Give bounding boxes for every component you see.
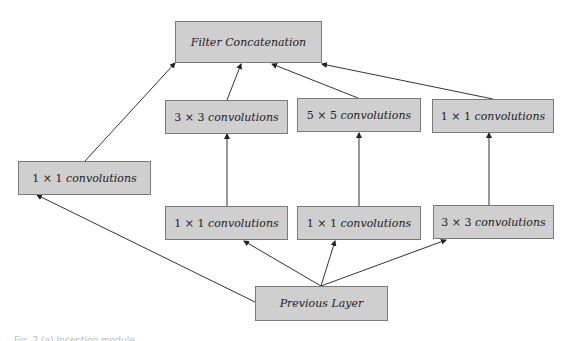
edge-previous-to-conv3x3-bottom-right [321, 240, 446, 286]
node-label: convolutions [341, 109, 412, 122]
node-label: convolutions [341, 217, 412, 230]
kernel-size: 1 × 1 [307, 217, 337, 230]
conv1x1-top-right-node: 1 × 1 convolutions [432, 99, 554, 133]
kernel-size: 1 × 1 [32, 172, 62, 185]
node-label: convolutions [208, 217, 279, 230]
conv3x3-bottom-right-node: 3 × 3 convolutions [433, 205, 554, 239]
edge-conv1x1-left-to-concat [85, 63, 175, 161]
edge-previous-to-conv1x1-bottom-a [244, 241, 321, 286]
figure-caption: Fig. 2 (a) Inception module [14, 333, 135, 341]
kernel-size: 3 × 3 [441, 216, 471, 229]
node-label: convolutions [66, 172, 137, 185]
previous-layer-node: Previous Layer [255, 286, 388, 321]
conv1x1-left-node: 1 × 1 convolutions [18, 161, 151, 195]
kernel-size: 3 × 3 [174, 111, 204, 124]
conv1x1-bottom-a-node: 1 × 1 convolutions [165, 206, 288, 240]
kernel-size: 5 × 5 [307, 109, 337, 122]
conv5x5-top-node: 5 × 5 convolutions [297, 98, 421, 132]
conv1x1-bottom-b-node: 1 × 1 convolutions [297, 206, 421, 240]
node-label: Filter Concatenation [191, 36, 306, 49]
node-label: convolutions [208, 111, 279, 124]
edge-conv3x3-top-to-concat [227, 64, 241, 100]
node-label: Previous Layer [280, 297, 364, 310]
kernel-size: 1 × 1 [174, 217, 204, 230]
edge-previous-to-conv1x1-bottom-b [321, 241, 335, 286]
node-label: convolutions [475, 216, 546, 229]
filter-concatenation-node: Filter Concatenation [175, 21, 322, 63]
kernel-size: 1 × 1 [441, 110, 471, 123]
conv3x3-top-node: 3 × 3 convolutions [165, 100, 288, 134]
inception-module-diagram: Filter Concatenation 3 × 3 convolutions … [0, 0, 570, 341]
node-label: convolutions [475, 110, 546, 123]
